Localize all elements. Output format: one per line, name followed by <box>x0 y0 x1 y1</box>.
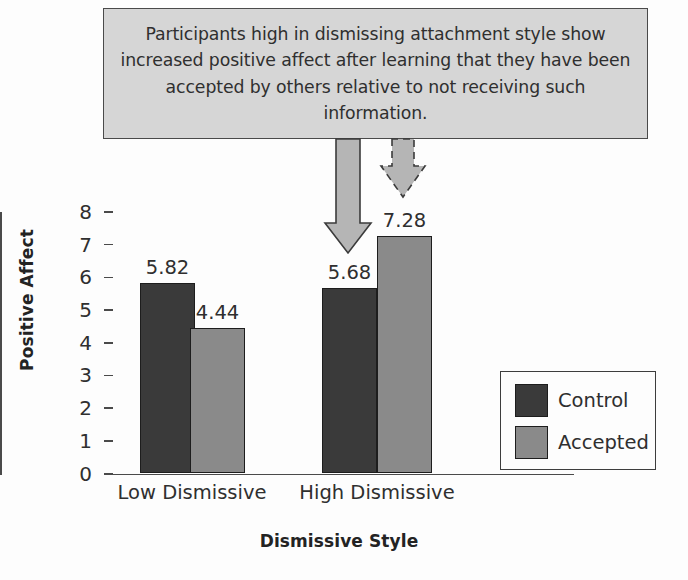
y-axis-tick-label: 3 <box>66 363 92 387</box>
x-axis-title: Dismissive Style <box>104 531 574 551</box>
y-axis-tick-label: 1 <box>66 429 92 453</box>
y-axis-tick-label: 8 <box>66 200 92 224</box>
callout-text: Participants high in dismissing attachme… <box>104 21 647 126</box>
bar-value-label: 4.44 <box>196 301 239 324</box>
bar-value-label: 5.82 <box>146 256 189 279</box>
bar-control-low-dismissive[interactable] <box>140 283 195 473</box>
y-axis-title: Positive Affect <box>17 210 37 390</box>
x-axis-category-label: Low Dismissive <box>118 481 267 504</box>
y-axis-tick-labels: 012345678 <box>66 0 92 580</box>
y-axis-tick <box>104 277 113 279</box>
x-axis-category-label: High Dismissive <box>299 481 454 504</box>
chart-legend: ControlAccepted <box>500 371 656 470</box>
legend-swatch-icon <box>515 426 548 459</box>
bar-control-high-dismissive[interactable] <box>322 288 377 474</box>
y-axis-tick-label: 5 <box>66 298 92 322</box>
callout-box: Participants high in dismissing attachme… <box>103 8 648 139</box>
y-axis-tick <box>104 407 113 409</box>
x-axis-line <box>104 474 574 476</box>
legend-item-accepted[interactable]: Accepted <box>515 426 655 459</box>
y-axis-tick <box>104 244 113 246</box>
bar-value-label: 7.28 <box>383 209 426 232</box>
bar-accepted-high-dismissive[interactable] <box>377 236 432 474</box>
y-axis-tick-label: 6 <box>66 265 92 289</box>
legend-label: Accepted <box>558 431 649 454</box>
y-axis-tick <box>104 309 113 311</box>
y-axis-tick <box>104 473 113 475</box>
legend-item-control[interactable]: Control <box>515 384 655 417</box>
bar-value-label: 5.68 <box>328 261 371 284</box>
y-axis-tick <box>104 375 113 377</box>
y-axis-tick <box>104 342 113 344</box>
y-axis-tick <box>104 211 113 213</box>
y-axis-line <box>0 212 2 475</box>
y-axis-tick-label: 7 <box>66 233 92 257</box>
y-axis-tick-label: 0 <box>66 462 92 486</box>
bar-accepted-low-dismissive[interactable] <box>190 328 245 473</box>
y-axis-tick <box>104 440 113 442</box>
solid-down-arrow <box>325 139 371 253</box>
dashed-down-arrow <box>381 139 425 197</box>
y-axis-tick-label: 2 <box>66 396 92 420</box>
legend-swatch-icon <box>515 384 548 417</box>
figure: Participants high in dismissing attachme… <box>0 0 688 580</box>
y-axis-tick-label: 4 <box>66 331 92 355</box>
legend-label: Control <box>558 389 629 412</box>
